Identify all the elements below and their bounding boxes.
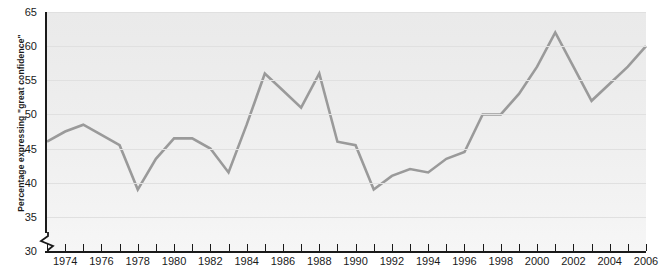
x-axis-tick bbox=[337, 244, 338, 251]
x-axis-tick bbox=[610, 244, 611, 251]
x-axis-tick bbox=[301, 244, 302, 251]
x-axis-tick-label: 2002 bbox=[561, 256, 585, 267]
x-axis-tick bbox=[356, 244, 357, 251]
x-axis-tick bbox=[374, 244, 375, 251]
x-axis-tick bbox=[156, 244, 157, 251]
x-axis-tick-label: 1990 bbox=[343, 256, 367, 267]
x-axis-tick bbox=[428, 244, 429, 251]
x-axis-tick bbox=[555, 244, 556, 251]
x-axis-tick bbox=[410, 244, 411, 251]
x-axis-tick bbox=[283, 244, 284, 251]
x-axis-tick bbox=[229, 244, 230, 251]
x-axis-tick-label: 1976 bbox=[89, 256, 113, 267]
x-axis-tick-label: 2000 bbox=[525, 256, 549, 267]
x-axis-tick-label: 1974 bbox=[53, 256, 77, 267]
x-axis-tick-label: 1994 bbox=[416, 256, 440, 267]
line-chart: Percentage expressing "great confidence"… bbox=[0, 0, 659, 280]
x-axis-tick bbox=[646, 244, 647, 251]
x-axis-tick bbox=[138, 244, 139, 251]
x-axis-tick bbox=[501, 244, 502, 251]
x-axis-tick bbox=[537, 244, 538, 251]
x-axis-tick bbox=[573, 244, 574, 251]
x-axis-tick-label: 2006 bbox=[634, 256, 658, 267]
x-axis-tick-label: 1992 bbox=[380, 256, 404, 267]
x-axis-tick-label: 1982 bbox=[198, 256, 222, 267]
x-axis-tick bbox=[101, 244, 102, 251]
x-axis-tick bbox=[319, 244, 320, 251]
x-axis-tick-label: 1998 bbox=[489, 256, 513, 267]
x-axis-tick-label: 1984 bbox=[234, 256, 258, 267]
x-axis-tick bbox=[210, 244, 211, 251]
x-axis-tick bbox=[483, 244, 484, 251]
x-axis-tick bbox=[247, 244, 248, 251]
x-axis-tick bbox=[83, 244, 84, 251]
x-axis-tick bbox=[65, 244, 66, 251]
x-axis-tick bbox=[192, 244, 193, 251]
x-axis-tick bbox=[47, 244, 48, 251]
x-axis-ticks: 1974197619781980198219841986198819901992… bbox=[0, 0, 659, 280]
x-axis-tick bbox=[392, 244, 393, 251]
x-axis-tick bbox=[265, 244, 266, 251]
x-axis-tick bbox=[628, 244, 629, 251]
x-axis-tick bbox=[592, 244, 593, 251]
x-axis-tick bbox=[174, 244, 175, 251]
x-axis-tick-label: 1988 bbox=[307, 256, 331, 267]
x-axis-tick-label: 2004 bbox=[597, 256, 621, 267]
x-axis-tick bbox=[120, 244, 121, 251]
x-axis-tick bbox=[464, 244, 465, 251]
x-axis-tick-label: 1980 bbox=[162, 256, 186, 267]
x-axis-tick-label: 1996 bbox=[452, 256, 476, 267]
x-axis-tick-label: 1978 bbox=[126, 256, 150, 267]
x-axis-tick bbox=[446, 244, 447, 251]
x-axis-tick bbox=[519, 244, 520, 251]
x-axis-tick-label: 1986 bbox=[271, 256, 295, 267]
